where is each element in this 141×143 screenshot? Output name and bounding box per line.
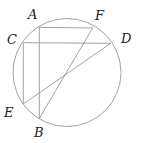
segment-AF: [39, 27, 92, 28]
label-D: D: [120, 31, 132, 46]
chords: [23, 27, 110, 118]
segment-ED: [23, 43, 110, 104]
label-A: A: [27, 7, 37, 22]
segment-CD: [23, 43, 110, 44]
label-F: F: [94, 8, 105, 23]
geometry-diagram: A F C D E B: [0, 0, 141, 143]
segment-BF: [39, 28, 92, 118]
label-E: E: [3, 105, 14, 120]
label-C: C: [7, 32, 17, 47]
label-B: B: [33, 125, 44, 140]
circle: [13, 19, 121, 127]
